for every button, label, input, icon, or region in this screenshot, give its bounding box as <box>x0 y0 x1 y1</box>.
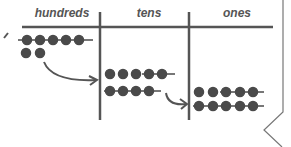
carry-arrow-tens-to-ones <box>166 93 186 104</box>
place-value-diagram <box>0 0 291 147</box>
carry-arrow-hundreds-to-tens <box>44 62 96 80</box>
page-edge <box>264 0 283 147</box>
left-mark <box>4 33 8 38</box>
